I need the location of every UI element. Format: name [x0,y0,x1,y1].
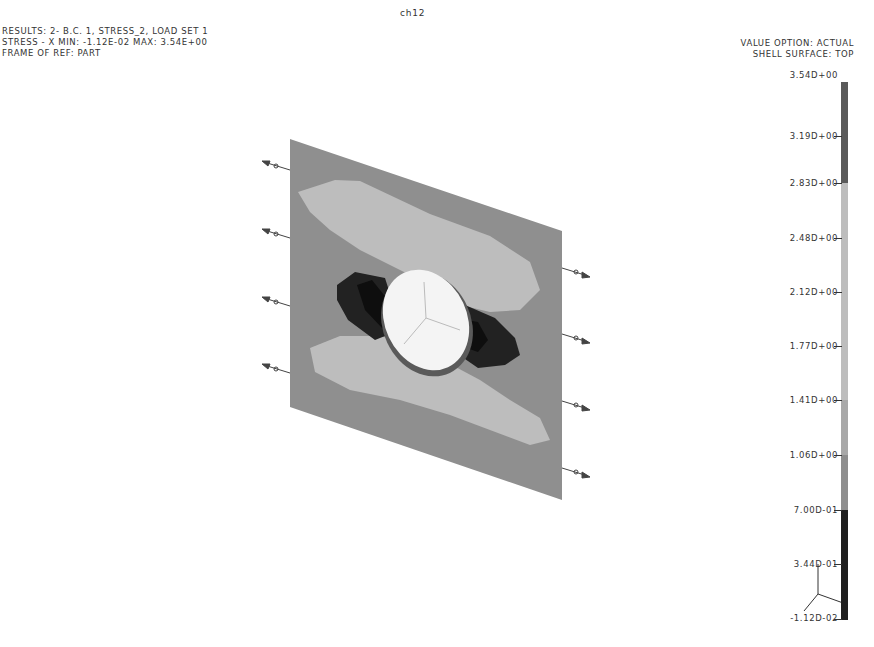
tick-label: 3.44D-01 [794,559,838,569]
colorbar-band-upper [841,183,848,400]
tick-label: 2.12D+00 [790,287,838,297]
axis-triad-icon [804,564,846,611]
tick-label: 3.19D+00 [790,131,838,141]
tick-label: 2.48D+00 [790,233,838,243]
colorbar-band-low [841,455,848,510]
colorbar-tick [834,455,842,456]
tick-label: 1.77D+00 [790,341,838,351]
tick-label: 2.83D+00 [790,178,838,188]
tick-label: 1.06D+00 [790,450,838,460]
colorbar-tick [834,136,842,137]
colorbar-tick [834,564,842,565]
right-load-arrows [562,268,590,478]
tick-label: 7.00D-01 [794,505,838,515]
tick-label: 1.41D+00 [790,395,838,405]
colorbar-tick [834,292,842,293]
colorbar-band-top [841,82,848,183]
colorbar-tick [834,238,842,239]
colorbar-tick [834,400,842,401]
tick-label: -1.12D-02 [790,613,838,623]
colorbar-band-bottom [841,510,848,620]
colorbar-tick [834,619,842,620]
colorbar-tick [834,510,842,511]
tick-label: 3.54D+00 [790,70,838,80]
contour-plot [0,0,874,647]
colorbar-tick [834,183,842,184]
colorbar-tick [834,346,842,347]
left-load-arrows [262,161,290,373]
colorbar-band-mid [841,400,848,455]
